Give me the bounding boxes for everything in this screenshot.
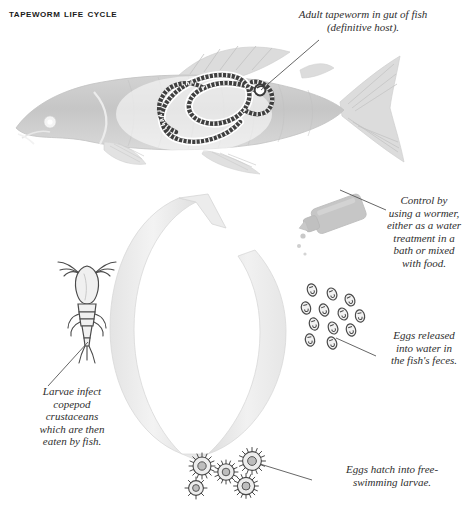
bottle-drop-1 — [300, 233, 305, 238]
fish-illustration — [8, 30, 418, 190]
leader-line-eggs-released — [334, 336, 378, 358]
caption-adult-tapeworm: Adult tapeworm in gut of fish (definitiv… — [258, 8, 468, 33]
copepod-head — [75, 266, 98, 304]
larva — [185, 448, 266, 500]
leader-line-eggs-hatch — [258, 462, 314, 484]
caption-control-wormer: Control by using a wormer, either as a w… — [375, 194, 473, 270]
leader-line-adult-tapeworm — [255, 38, 325, 98]
bottle-drop-2 — [297, 244, 301, 248]
bottle-drop-3 — [303, 252, 306, 255]
copepod-thorax — [78, 304, 96, 312]
caption-eggs-released: Eggs released into water in the fish's f… — [374, 329, 474, 367]
fish-tail-fin — [340, 56, 404, 162]
fish-anal-fin — [202, 150, 260, 174]
cycle-arrowhead — [179, 194, 226, 228]
cycle-ribbon-right — [208, 250, 286, 454]
caption-larvae-infect: Larvae infect copepod crustaceans which … — [8, 385, 136, 448]
caption-eggs-hatch: Eggs hatch into free- swimming larvae. — [312, 463, 472, 488]
page-title: Tapeworm life cycle — [9, 7, 117, 19]
leader-line-larvae-infect — [46, 340, 90, 388]
copepod-abdomen — [82, 326, 92, 338]
tapeworm-life-cycle-diagram: Tapeworm life cycle — [0, 0, 474, 513]
